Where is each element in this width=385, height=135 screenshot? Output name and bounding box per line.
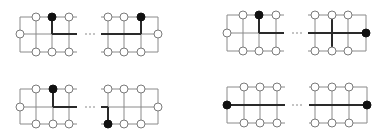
top-node — [32, 85, 40, 93]
bottom-node — [48, 48, 56, 56]
bottom-node — [273, 119, 281, 127]
right-edge-node — [154, 30, 162, 38]
top-node — [65, 85, 73, 93]
ellipsis-dot — [292, 104, 294, 106]
panel-top-left — [16, 13, 162, 56]
bottom-node — [311, 119, 319, 127]
top-node — [273, 83, 281, 91]
bottom-node — [344, 47, 352, 55]
top-node — [239, 11, 247, 19]
bottom-node — [104, 48, 112, 56]
bottom-node — [137, 120, 145, 128]
bottom-node — [65, 48, 73, 56]
right-edge-node — [362, 29, 370, 37]
panel-bottom-left — [16, 85, 162, 128]
ellipsis-dot — [89, 106, 91, 108]
bottom-node — [120, 120, 128, 128]
ellipsis-dot — [300, 104, 302, 106]
top-node — [48, 13, 56, 21]
top-node — [311, 11, 319, 19]
ellipsis-dot — [93, 33, 95, 35]
bottom-node — [32, 48, 40, 56]
top-node — [272, 11, 280, 19]
ellipsis-dot — [93, 106, 95, 108]
lattice-diagram — [0, 0, 385, 135]
ellipsis-dot — [292, 32, 294, 34]
top-node — [32, 13, 40, 21]
top-node — [345, 83, 353, 91]
top-node — [311, 83, 319, 91]
panel-top-right — [223, 11, 370, 55]
panel-bottom-right — [223, 83, 371, 127]
ellipsis-dot — [85, 33, 87, 35]
top-node — [120, 85, 128, 93]
bottom-node — [104, 120, 112, 128]
bottom-node — [256, 119, 264, 127]
top-node — [137, 13, 145, 21]
ellipsis-dot — [296, 32, 298, 34]
right-edge-node — [363, 101, 371, 109]
ellipsis-dot — [300, 32, 302, 34]
ellipsis-dot — [85, 106, 87, 108]
ellipsis-dot — [89, 33, 91, 35]
top-node — [104, 85, 112, 93]
bottom-node — [328, 47, 336, 55]
top-node — [104, 13, 112, 21]
top-node — [65, 13, 73, 21]
bottom-node — [49, 120, 57, 128]
bottom-node — [32, 120, 40, 128]
bottom-node — [137, 48, 145, 56]
top-node — [256, 83, 264, 91]
bottom-node — [65, 120, 73, 128]
top-node — [120, 13, 128, 21]
bottom-node — [239, 47, 247, 55]
top-node — [240, 83, 248, 91]
bottom-node — [328, 119, 336, 127]
left-edge-node — [16, 30, 24, 38]
left-edge-node — [16, 103, 24, 111]
top-node — [137, 85, 145, 93]
bottom-node — [255, 47, 263, 55]
bottom-node — [240, 119, 248, 127]
ellipsis-dot — [296, 104, 298, 106]
bottom-node — [311, 47, 319, 55]
top-node — [328, 83, 336, 91]
left-edge-node — [223, 101, 231, 109]
left-edge-node — [223, 29, 231, 37]
top-node — [344, 11, 352, 19]
top-node — [255, 11, 263, 19]
right-edge-node — [154, 103, 162, 111]
top-node — [328, 11, 336, 19]
bottom-node — [120, 48, 128, 56]
bottom-node — [345, 119, 353, 127]
top-node — [49, 85, 57, 93]
bottom-node — [272, 47, 280, 55]
